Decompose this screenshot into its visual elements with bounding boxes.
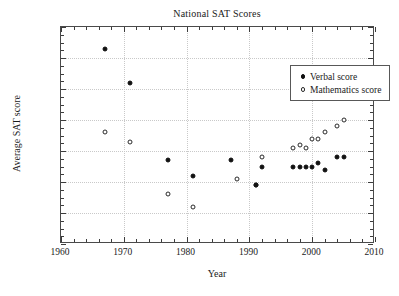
axis-tick-minor — [61, 229, 64, 230]
axis-tick — [249, 27, 250, 32]
axis-tick-minor — [99, 27, 100, 30]
axis-tick — [368, 58, 373, 59]
axis-tick-minor — [370, 43, 373, 44]
axis-tick-minor — [237, 27, 238, 30]
axis-tick-minor — [224, 27, 225, 30]
data-point — [335, 124, 340, 129]
data-point — [259, 164, 264, 169]
axis-tick-minor — [61, 174, 64, 175]
open-circle-icon — [296, 87, 310, 92]
axis-tick-minor — [370, 236, 373, 237]
axis-tick-minor — [370, 229, 373, 230]
axis-tick-minor — [61, 74, 64, 75]
data-point — [335, 155, 340, 160]
axis-tick-minor — [174, 239, 175, 242]
axis-tick-minor — [370, 128, 373, 129]
axis-tick-minor — [61, 105, 64, 106]
axis-tick-minor — [224, 239, 225, 242]
axis-tick-minor — [212, 239, 213, 242]
axis-tick-minor — [61, 221, 64, 222]
axis-tick-minor — [370, 190, 373, 191]
axis-tick — [61, 182, 66, 183]
axis-tick-minor — [370, 35, 373, 36]
axis-tick-minor — [362, 27, 363, 30]
axis-tick-minor — [74, 239, 75, 242]
axis-tick — [61, 244, 66, 245]
axis-tick-minor — [61, 159, 64, 160]
data-point — [128, 80, 133, 85]
axis-tick-minor — [61, 167, 64, 168]
axis-tick-minor — [86, 239, 87, 242]
axis-tick-minor — [275, 27, 276, 30]
legend: Verbal score Mathematics score — [290, 65, 390, 101]
data-point — [102, 46, 107, 51]
axis-tick — [61, 237, 62, 242]
x-axis-label: Year — [60, 268, 374, 279]
axis-tick — [368, 244, 373, 245]
axis-tick-minor — [61, 198, 64, 199]
data-point — [297, 164, 302, 169]
gridline-horizontal — [61, 213, 373, 214]
sat-scores-figure: National SAT Scores Average SAT score Ye… — [0, 0, 399, 296]
axis-tick — [61, 213, 66, 214]
axis-tick-minor — [370, 136, 373, 137]
gridline-horizontal — [61, 151, 373, 152]
axis-tick-minor — [199, 27, 200, 30]
axis-tick-minor — [370, 112, 373, 113]
data-point — [234, 176, 239, 181]
axis-tick-minor — [300, 239, 301, 242]
axis-tick — [187, 237, 188, 242]
gridline-vertical — [124, 27, 125, 242]
axis-tick-minor — [325, 27, 326, 30]
axis-tick-minor — [262, 27, 263, 30]
axis-tick-minor — [174, 27, 175, 30]
axis-tick-minor — [337, 27, 338, 30]
axis-tick-minor — [61, 43, 64, 44]
axis-tick-minor — [199, 239, 200, 242]
axis-tick-minor — [370, 167, 373, 168]
data-point — [303, 145, 308, 150]
axis-tick-minor — [136, 27, 137, 30]
axis-tick-minor — [370, 174, 373, 175]
axis-tick-minor — [161, 27, 162, 30]
data-point — [165, 192, 170, 197]
axis-tick-minor — [61, 97, 64, 98]
axis-tick-minor — [262, 239, 263, 242]
data-point — [310, 136, 315, 141]
axis-tick-minor — [370, 205, 373, 206]
data-point — [341, 155, 346, 160]
gridline-horizontal — [61, 58, 373, 59]
data-point — [322, 167, 327, 172]
page-title: National SAT Scores — [60, 8, 374, 19]
data-point — [303, 164, 308, 169]
axis-tick-minor — [362, 239, 363, 242]
axis-tick-minor — [350, 239, 351, 242]
axis-tick-minor — [86, 27, 87, 30]
legend-item-mathematics: Mathematics score — [296, 83, 382, 96]
axis-tick-minor — [370, 159, 373, 160]
axis-tick-minor — [111, 239, 112, 242]
axis-tick-minor — [111, 27, 112, 30]
axis-tick — [187, 27, 188, 32]
data-point — [102, 130, 107, 135]
gridline-vertical — [312, 27, 313, 242]
data-point — [253, 183, 258, 188]
data-point — [297, 142, 302, 147]
data-point — [316, 161, 321, 166]
plot-area: Verbal score Mathematics score — [60, 26, 374, 243]
axis-tick — [368, 27, 373, 28]
axis-tick-minor — [370, 198, 373, 199]
data-point — [322, 130, 327, 135]
data-point — [228, 158, 233, 163]
axis-tick — [312, 27, 313, 32]
gridline-vertical — [249, 27, 250, 242]
data-point — [128, 139, 133, 144]
filled-circle-icon — [296, 74, 310, 79]
data-point — [190, 173, 195, 178]
gridline-horizontal — [61, 182, 373, 183]
data-point — [341, 118, 346, 123]
axis-tick — [368, 213, 373, 214]
data-point — [259, 155, 264, 160]
axis-tick-minor — [212, 27, 213, 30]
axis-tick-minor — [61, 136, 64, 137]
